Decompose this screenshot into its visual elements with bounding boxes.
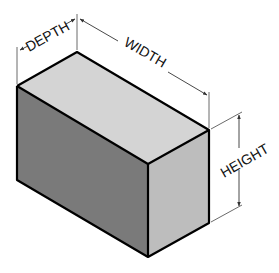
box-diagram: DEPTH WIDTH HEIGHT [0, 0, 279, 273]
depth-label: DEPTH [23, 18, 72, 55]
height-label: HEIGHT [218, 140, 272, 181]
width-label: WIDTH [122, 34, 170, 71]
